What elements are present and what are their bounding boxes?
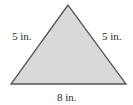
triangle-figure: 5 in. 5 in. 8 in. [0,0,133,105]
triangle-shape [0,0,133,105]
left-side-length-label: 5 in. [12,30,32,42]
base-length-label: 8 in. [57,91,77,103]
right-side-length-label: 5 in. [102,30,122,42]
triangle-polygon [11,5,126,84]
